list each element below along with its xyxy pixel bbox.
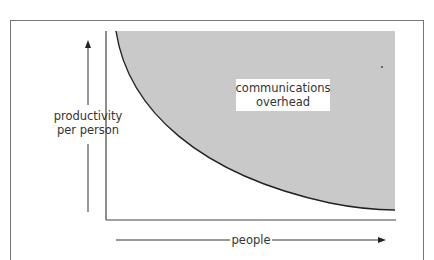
right-arrow-icon [378,237,386,243]
up-arrow-icon [85,40,91,48]
overhead-label-line1: communications [236,81,331,95]
x-axis-label: people [231,233,271,247]
speck [381,66,383,68]
overhead-label-box: communications overhead [236,79,330,111]
y-axis-label: productivity per person [42,109,134,137]
y-axis-label-line1: productivity [42,109,134,123]
y-axis-label-line2: per person [42,123,134,137]
overhead-area [116,31,395,210]
overhead-label-line2: overhead [236,95,331,109]
